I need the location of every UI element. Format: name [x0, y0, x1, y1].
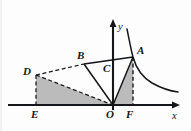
point-label-E: E	[30, 108, 38, 120]
point-label-B: B	[76, 49, 84, 61]
point-label-F: F	[125, 108, 134, 120]
x-axis-arrow	[172, 102, 180, 109]
hyperbola-curve	[127, 29, 178, 92]
geometry-canvas: A B C D E O F x y	[0, 0, 191, 131]
point-label-O: O	[106, 108, 114, 120]
page-edge	[0, 0, 2, 131]
y-axis-label: y	[117, 21, 123, 32]
segment-DB	[36, 64, 84, 75]
point-label-D: D	[22, 65, 31, 77]
y-axis-arrow	[110, 19, 117, 27]
point-label-A: A	[136, 44, 144, 56]
x-axis-label: x	[171, 110, 177, 121]
geometry-figure: A B C D E O F x y	[0, 0, 191, 131]
point-label-C: C	[103, 62, 111, 74]
